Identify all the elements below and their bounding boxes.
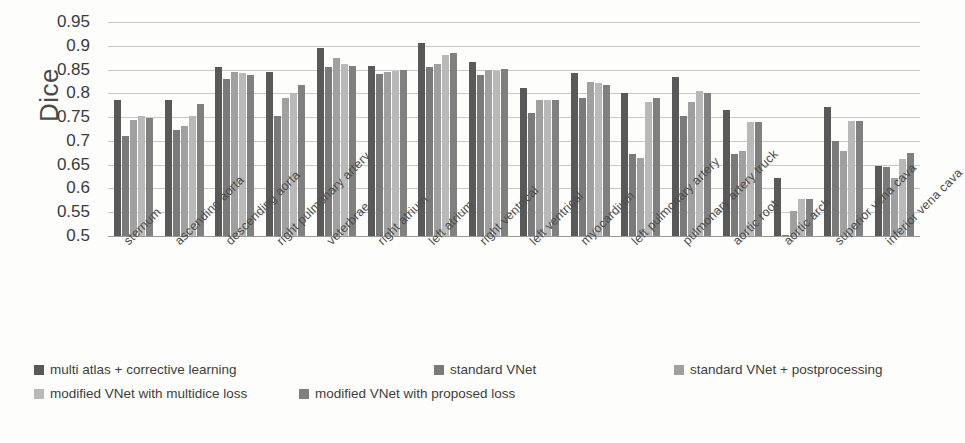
bar	[274, 116, 281, 236]
bar	[688, 102, 695, 236]
y-axis-tick-label: 0.95	[57, 12, 90, 32]
legend-swatch-icon	[299, 389, 309, 399]
y-axis-tick-label: 0.55	[57, 202, 90, 222]
legend-item[interactable]: modified VNet with proposed loss	[299, 386, 515, 401]
legend-swatch-icon	[434, 365, 444, 375]
legend-swatch-icon	[34, 389, 44, 399]
bar	[680, 116, 687, 236]
legend-item-label: standard VNet	[450, 362, 536, 377]
bar	[341, 64, 348, 236]
y-axis-tick-label: 0.85	[57, 60, 90, 80]
bar	[434, 64, 441, 236]
bar	[832, 141, 839, 236]
x-axis-tick-labels: sternumascending aortadescending aortari…	[108, 238, 920, 356]
bar	[173, 130, 180, 236]
y-axis-tick-label: 0.75	[57, 107, 90, 127]
legend-item[interactable]: standard VNet + postprocessing	[674, 362, 883, 377]
bar	[621, 93, 628, 236]
bar	[239, 73, 246, 236]
bar	[536, 100, 543, 236]
legend-item-label: standard VNet + postprocessing	[690, 362, 883, 377]
legend-item-label: modified VNet with proposed loss	[315, 386, 515, 401]
legend-item[interactable]: multi atlas + corrective learning	[34, 362, 236, 377]
bar	[392, 71, 399, 236]
bar	[231, 72, 238, 236]
bar	[333, 58, 340, 236]
legend-swatch-icon	[34, 365, 44, 375]
bar	[493, 71, 500, 236]
bar-group	[108, 22, 159, 236]
bar	[325, 67, 332, 236]
legend-swatch-icon	[674, 365, 684, 375]
legend-item-label: multi atlas + corrective learning	[50, 362, 236, 377]
legend-item-label: modified VNet with multidice loss	[50, 386, 247, 401]
bar	[528, 113, 535, 236]
bar	[824, 107, 831, 236]
bar	[130, 120, 137, 237]
bar	[477, 75, 484, 236]
y-axis-tick-label: 0.6	[66, 178, 90, 198]
y-axis-tick-label: 0.65	[57, 155, 90, 175]
y-axis-tick-label: 0.9	[66, 36, 90, 56]
bar	[376, 74, 383, 236]
bar	[579, 98, 586, 236]
y-axis-tick-label: 0.5	[66, 226, 90, 246]
y-axis-tick-labels: 0.950.90.850.80.750.70.650.60.550.5	[0, 22, 100, 236]
chart-legend: multi atlas + corrective learningstandar…	[34, 362, 914, 414]
bar	[181, 126, 188, 236]
bar	[384, 72, 391, 236]
bar-group	[362, 22, 413, 236]
legend-item[interactable]: modified VNet with multidice loss	[34, 386, 247, 401]
bar	[122, 136, 129, 236]
bar	[114, 100, 121, 236]
bar	[223, 79, 230, 236]
y-axis-tick-label: 0.8	[66, 83, 90, 103]
bar	[595, 83, 602, 236]
bar-group	[159, 22, 210, 236]
bar	[442, 55, 449, 236]
bar	[282, 98, 289, 236]
bar	[485, 70, 492, 236]
bar	[587, 82, 594, 236]
bar	[723, 110, 730, 236]
legend-item[interactable]: standard VNet	[434, 362, 536, 377]
y-axis-tick-label: 0.7	[66, 131, 90, 151]
bar	[165, 100, 172, 236]
bar	[426, 67, 433, 236]
